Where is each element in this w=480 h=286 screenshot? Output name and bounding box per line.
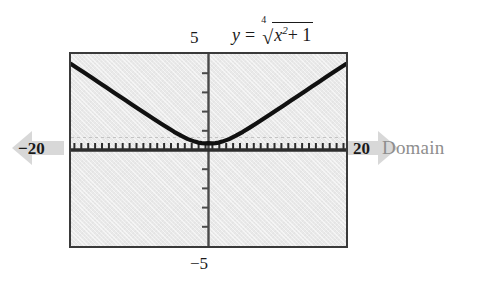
equation-label: y = 4 √ x2+ 1 bbox=[232, 22, 313, 46]
radical-index: 4 bbox=[261, 15, 266, 25]
x-max-label: 20 bbox=[353, 140, 370, 157]
radical-expression: 4 √ x2+ 1 bbox=[260, 22, 313, 46]
radicand-base: x bbox=[274, 25, 282, 45]
x-min-label: −20 bbox=[18, 140, 45, 157]
equation-lhs: y bbox=[232, 25, 240, 46]
plot-canvas bbox=[71, 54, 346, 246]
y-min-label: −5 bbox=[190, 255, 208, 272]
radical-sign-icon: √ bbox=[262, 27, 273, 47]
y-max-label: 5 bbox=[190, 29, 199, 46]
radicand: x2+ 1 bbox=[272, 22, 313, 46]
radicand-tail: + 1 bbox=[288, 25, 312, 45]
figure-root: −20 20 5 −5 Domain y = 4 √ x2+ 1 bbox=[0, 0, 480, 286]
graph-window bbox=[69, 52, 348, 248]
domain-caption: Domain bbox=[382, 137, 444, 159]
equation-relation: = bbox=[245, 25, 255, 46]
